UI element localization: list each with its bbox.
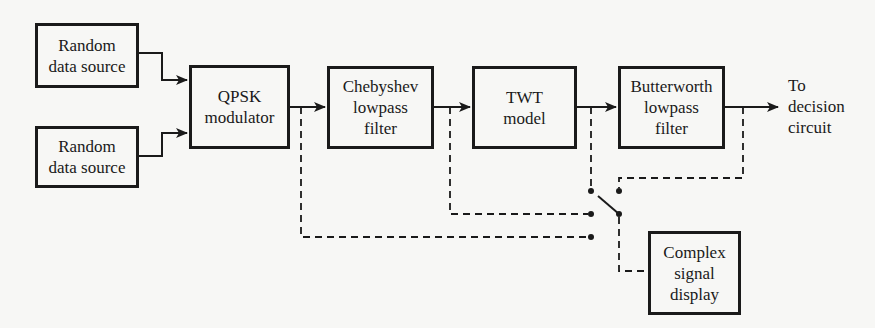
block-label-line: filter — [630, 118, 712, 139]
butterworth-lowpass-filter: Butterworth lowpass filter — [618, 66, 725, 149]
switch-to-display — [619, 217, 647, 271]
wire-src1-qpsk — [138, 53, 187, 80]
block-label-line: Random — [49, 35, 126, 56]
switch-arm — [598, 196, 619, 214]
block-label-line: Butterworth — [630, 76, 712, 97]
qpsk-modulator: QPSK modulator — [189, 65, 290, 149]
block-label-line: lowpass — [630, 97, 712, 118]
block-label-line: QPSK — [205, 86, 275, 107]
block-label-line: TWT — [503, 87, 546, 108]
random-data-source-1: Random data source — [35, 23, 139, 88]
block-label-line: Complex — [663, 242, 725, 263]
output-label-line: To — [788, 75, 845, 96]
block-label-line: Random — [49, 136, 126, 157]
switch-contacts — [588, 188, 622, 240]
block-label-line: signal — [663, 263, 725, 284]
complex-signal-display: Complex signal display — [648, 231, 741, 315]
block-label-line: data source — [49, 56, 126, 77]
block-label-line: modulator — [205, 107, 275, 128]
output-label-line: circuit — [788, 117, 845, 138]
block-label-line: display — [663, 284, 725, 305]
twt-model: TWT model — [472, 66, 577, 149]
block-label-line: model — [503, 108, 546, 129]
block-label-line: lowpass — [343, 97, 419, 118]
block-label-line: Chebyshev — [343, 76, 419, 97]
random-data-source-2: Random data source — [35, 126, 139, 188]
block-label-line: filter — [343, 118, 419, 139]
wire-src2-qpsk — [138, 133, 187, 156]
output-label: To decision circuit — [788, 75, 845, 138]
chebyshev-lowpass-filter: Chebyshev lowpass filter — [327, 66, 434, 149]
output-label-line: decision — [788, 96, 845, 117]
block-label-line: data source — [49, 157, 126, 178]
